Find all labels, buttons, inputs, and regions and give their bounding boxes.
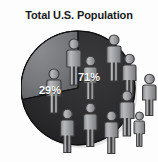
- chart-title: Total U.S. Population: [0, 9, 158, 21]
- pie-slice-label-71: 71%: [78, 71, 100, 83]
- person-icon-11: [103, 110, 120, 154]
- person-icon-10: [82, 102, 99, 147]
- person-icon-9: [59, 108, 76, 153]
- person-icon-6: [141, 73, 158, 116]
- chart-figure: Total U.S. Population: [0, 0, 158, 162]
- person-icon-8: [133, 111, 146, 147]
- pie-slice-label-29: 29%: [39, 84, 61, 96]
- pie-chart: 29% 71%: [21, 28, 137, 149]
